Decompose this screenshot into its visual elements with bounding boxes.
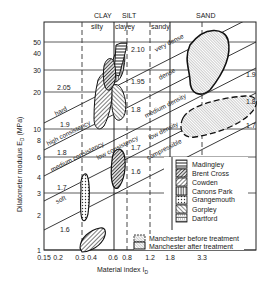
ytick: 4: [37, 174, 41, 181]
xtick: 0.6: [108, 254, 118, 261]
gamma-clay-1: 2.05: [57, 84, 71, 91]
legend-label: Grangemouth: [192, 196, 235, 204]
legend-swatch-madingley: [176, 160, 187, 168]
ytick: 1: [37, 247, 41, 254]
legend-label: Brent Cross: [192, 170, 229, 177]
ytick: 10: [33, 126, 41, 133]
label-sandy: sandy: [151, 23, 170, 31]
legend-swatch-manchester-after: [134, 242, 145, 249]
xtick: 1.2: [145, 254, 155, 261]
ytick: 30: [33, 67, 41, 74]
xtick: 0.8: [122, 254, 132, 261]
gamma-silt-4: 1.7: [131, 144, 141, 151]
gamma-silt-5: 1.6: [131, 168, 141, 175]
ytick: 2: [37, 212, 41, 219]
y-axis-title: Dilatometer modulus ED (MPa): [16, 117, 25, 212]
legend-swatch-cowden: [176, 178, 187, 186]
region-grangemouth: [81, 174, 90, 221]
ytick: 8: [37, 137, 41, 144]
ytick: 50: [33, 39, 41, 46]
xtick: 0.3: [75, 254, 85, 261]
gamma-silt-2: 1.95: [131, 78, 145, 85]
legend-label: Canons Park: [192, 188, 233, 195]
xtick: 1.8: [165, 254, 175, 261]
xtick: 0.4: [87, 254, 97, 261]
legend-swatch-brent-cross: [176, 169, 187, 177]
gamma-clay-4: 1.7: [57, 184, 67, 191]
xtick: 0.15: [37, 254, 51, 261]
ytick: 3: [37, 190, 41, 197]
y-axis-ticks: 50 40 30 20 10 8 6 4 3 2 1: [33, 39, 41, 254]
legend-swatch-canons-park: [176, 187, 187, 195]
ytick: 20: [33, 89, 41, 96]
legend-swatch-dartford: [176, 214, 187, 222]
legend-label: Cowden: [192, 179, 218, 186]
classification-chart: CLAY SILT SAND silty clayey sandy hard h…: [0, 0, 272, 286]
gamma-clay-3: 1.8: [57, 149, 67, 156]
legend-swatch-manchester-before: [134, 235, 145, 242]
gamma-silt-1: 2.10: [131, 46, 145, 53]
label-sand: SAND: [196, 12, 215, 19]
legend-label: Gorpley: [192, 206, 217, 214]
gamma-clay-5: 1.6: [60, 226, 70, 233]
gamma-silt-3: 1.8: [131, 106, 141, 113]
x-axis-ticks: 0.15 0.2 0.3 0.4 0.6 0.8 1.2 1.8 3.3: [37, 254, 207, 261]
legend-label: Manchester after treatment: [149, 243, 233, 250]
gamma-sand-1: 1.9: [246, 71, 256, 78]
legend-swatch-grangemouth: [176, 196, 187, 204]
label-clay: CLAY: [94, 12, 112, 19]
legend-swatch-gorpley: [176, 205, 187, 213]
gamma-clay-2: 1.9: [60, 121, 70, 128]
legend-label: Manchester before treatment: [149, 235, 239, 242]
xtick: 0.2: [53, 254, 63, 261]
legend-label: Madingley: [192, 161, 224, 169]
label-silt: SILT: [122, 12, 137, 19]
ytick: 6: [37, 154, 41, 161]
ytick: 40: [33, 50, 41, 57]
label-silty: silty: [91, 23, 104, 31]
xtick: 3.3: [197, 254, 207, 261]
label-clayey: clayey: [115, 23, 135, 31]
gamma-sand-3: 1.7: [246, 122, 256, 129]
x-axis-title: Material index ID: [97, 266, 148, 275]
legend-label: Dartford: [192, 215, 217, 222]
gamma-sand-2: 1.8: [246, 98, 256, 105]
